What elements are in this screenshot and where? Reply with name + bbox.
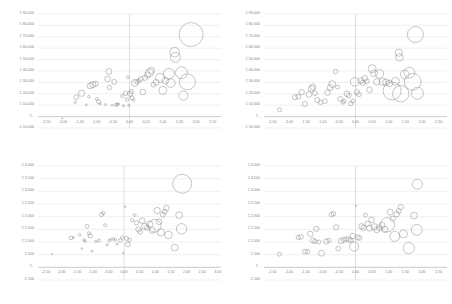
chart-panel-top-left: € 90.000€ 80.000€ 70.000€ 60.000€ 50.000… (0, 0, 226, 152)
y-axis-tick-label: € 4.000 (226, 164, 260, 168)
x-axis-tick-label: 1,50 (170, 121, 188, 125)
y-axis-tick-label: € 2.000 (226, 215, 260, 219)
y-axis-tick-label: € 70.000 (226, 35, 260, 39)
y-axis-tick-label: € 1.500 (0, 227, 34, 231)
y-axis-tick-label: € 30.000 (226, 80, 260, 84)
bubble-chart-grid: € 90.000€ 80.000€ 70.000€ 60.000€ 50.000… (0, 0, 452, 304)
y-axis-tick-label: € 60.000 (0, 46, 34, 50)
y-axis-tick-label: € 80.000 (226, 23, 260, 27)
x-axis-tick-label: 2,50 (430, 121, 448, 125)
y-axis-tick-label: € - (0, 115, 34, 119)
x-axis-tick-label: -0,50 (330, 271, 348, 275)
x-axis-tick-label: 0,50 (363, 121, 381, 125)
y-axis-tick-label: -€ 500 (0, 278, 34, 282)
x-axis-tick-label: -2,50 (263, 121, 281, 125)
y-axis-tick-label: € - (226, 115, 260, 119)
y-axis-tick-label: € 3.000 (226, 189, 260, 193)
y-axis-tick-label: € 10.000 (226, 103, 260, 107)
x-axis-tick-label: -2,50 (37, 121, 55, 125)
x-axis-tick-label: 0,50 (137, 121, 155, 125)
x-axis-tick-label: 1,00 (380, 121, 398, 125)
y-axis-tick-label: € 20.000 (226, 92, 260, 96)
y-axis-tick-label: € 500 (0, 253, 34, 257)
y-axis-tick-label: € 50.000 (0, 58, 34, 62)
x-axis-tick-label: 0,00 (121, 121, 139, 125)
x-axis-tick-label: 2,50 (430, 271, 448, 275)
x-axis-tick-label: -2,50 (263, 271, 281, 275)
x-axis-tick-label: -1,50 (297, 271, 315, 275)
x-axis-tick-label: -1,50 (71, 121, 89, 125)
x-axis-tick-label: -2,00 (280, 121, 298, 125)
x-axis-tick-label: -1,00 (313, 121, 331, 125)
y-axis-tick-label: -€ 10.000 (0, 126, 34, 130)
y-axis-tick-label: € 10.000 (0, 103, 34, 107)
y-axis-tick-label: € - (226, 265, 260, 269)
x-axis-tick-label: 0,50 (363, 271, 381, 275)
y-axis-tick-label: € 1.000 (0, 240, 34, 244)
y-axis-tick-label: € 90.000 (226, 12, 260, 16)
y-axis-tick-label: € 2.000 (0, 215, 34, 219)
y-axis-tick-label: € 3.500 (226, 177, 260, 181)
x-axis-tick-label: 1,00 (380, 271, 398, 275)
y-axis-tick-label: € 3.500 (0, 177, 34, 181)
x-axis-tick-label: 2,50 (204, 121, 222, 125)
y-axis-tick-label: € 70.000 (0, 35, 34, 39)
y-axis-tick-label: € 500 (226, 253, 260, 257)
x-axis-tick-label: 2,00 (413, 271, 431, 275)
x-axis-tick-label: -1,00 (313, 271, 331, 275)
x-axis-tick-label: -0,50 (330, 121, 348, 125)
x-axis-tick-label: 2,00 (187, 121, 205, 125)
y-axis-tick-label: € 2.500 (226, 202, 260, 206)
y-axis-tick-label: € 80.000 (0, 23, 34, 27)
x-axis-tick-label: 0,00 (347, 121, 365, 125)
chart-panel-bottom-right: € 4.000€ 3.500€ 3.000€ 2.500€ 2.000€ 1.5… (226, 152, 452, 304)
y-axis-tick-label: € 90.000 (0, 12, 34, 16)
y-axis-tick-label: € 4.000 (0, 164, 34, 168)
chart-panel-top-right: € 90.000€ 80.000€ 70.000€ 60.000€ 50.000… (226, 0, 452, 152)
y-axis-tick-label: -€ 500 (226, 278, 260, 282)
y-axis-tick-label: € 60.000 (226, 46, 260, 50)
y-axis-tick-label: € 50.000 (226, 58, 260, 62)
y-axis-tick-label: € 3.000 (0, 189, 34, 193)
x-axis-tick-label: 3,00 (209, 271, 227, 275)
y-axis-tick-label: € 20.000 (0, 92, 34, 96)
x-axis-tick-label: 1,00 (154, 121, 172, 125)
y-axis-tick-label: € 2.500 (0, 202, 34, 206)
y-axis-tick-label: € - (0, 265, 34, 269)
y-axis-tick-label: € 1.500 (226, 227, 260, 231)
y-axis-tick-label: € 1.000 (226, 240, 260, 244)
x-axis-tick-label: -0,50 (104, 121, 122, 125)
y-axis-tick-label: € 30.000 (0, 80, 34, 84)
y-axis-tick-label: -€ 10.000 (226, 126, 260, 130)
x-axis-tick-label: 1,50 (396, 271, 414, 275)
x-axis-tick-label: 1,50 (396, 121, 414, 125)
chart-panel-bottom-left: € 4.000€ 3.500€ 3.000€ 2.500€ 2.000€ 1.5… (0, 152, 226, 304)
x-axis-tick-label: -2,00 (280, 271, 298, 275)
y-axis-tick-label: € 40.000 (0, 69, 34, 73)
x-axis-tick-label: -2,00 (54, 121, 72, 125)
x-axis-tick-label: -1,00 (87, 121, 105, 125)
y-axis-tick-label: € 40.000 (226, 69, 260, 73)
x-axis-tick-label: 0,00 (347, 271, 365, 275)
x-axis-tick-label: 2,00 (413, 121, 431, 125)
x-axis-tick-label: -1,50 (297, 121, 315, 125)
